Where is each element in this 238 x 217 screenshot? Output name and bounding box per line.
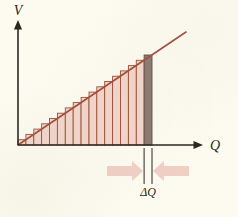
bar-item (128, 66, 136, 145)
delta-tick-group (144, 148, 152, 184)
bar-item (105, 82, 113, 146)
graph-canvas: V Q ΔQ (0, 0, 238, 217)
y-axis-label: V (14, 3, 24, 18)
highlighted-delta-bar (144, 55, 152, 145)
bar-item (97, 87, 105, 145)
bar-item (65, 108, 73, 145)
x-axis-arrowhead (194, 141, 204, 149)
bar-item (89, 92, 97, 145)
delta-q-label: ΔQ (139, 185, 156, 199)
delta-arrow-group (107, 161, 189, 181)
bar-item (121, 71, 129, 145)
y-axis-arrowhead (14, 20, 22, 30)
arrow-right-icon (107, 161, 143, 181)
bar-item (81, 97, 89, 145)
bar-item (136, 60, 144, 145)
arrow-left-icon (153, 161, 189, 181)
v-q-graph-figure: V Q ΔQ (0, 0, 238, 217)
bar-item (73, 103, 81, 145)
bar-item (113, 76, 121, 145)
x-axis-label: Q (210, 138, 220, 153)
